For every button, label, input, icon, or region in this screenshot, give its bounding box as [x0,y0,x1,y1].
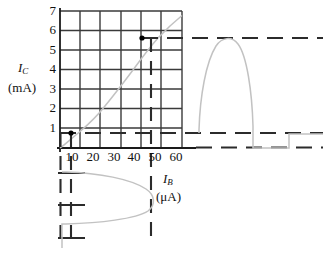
y-tick-7: 7 [42,4,56,17]
y-tick-6: 6 [42,23,56,36]
x-axis-title-line2: (μA) [156,190,181,203]
x-tick-40: 40 [124,150,144,163]
input-waveform-curve [62,172,153,248]
x-tick-20: 20 [83,150,103,163]
x-tick-50: 50 [145,150,165,163]
y-tick-3: 3 [42,82,56,95]
y-axis-title-line2: (mA) [8,81,36,94]
y-tick-5: 5 [42,43,56,56]
y-tick-1: 1 [42,121,56,134]
y-axis-subscript: C [22,66,28,76]
y-tick-2: 2 [42,101,56,114]
y-tick-4: 4 [42,62,56,75]
transfer-characteristic-figure: 7 6 5 4 3 2 1 IC (mA) 10 20 30 40 50 60 … [0,0,323,255]
q-point-high-dot [139,35,144,40]
output-waveform-curve [199,39,323,148]
plot-axes [57,8,196,152]
q-point-low-dot [68,130,73,135]
x-tick-10: 10 [62,150,82,163]
x-axis-title-line1: IB [163,172,173,187]
x-tick-60: 60 [166,150,186,163]
x-tick-30: 30 [104,150,124,163]
y-axis-title-line1: IC [18,61,28,76]
x-axis-subscript: B [167,177,173,187]
